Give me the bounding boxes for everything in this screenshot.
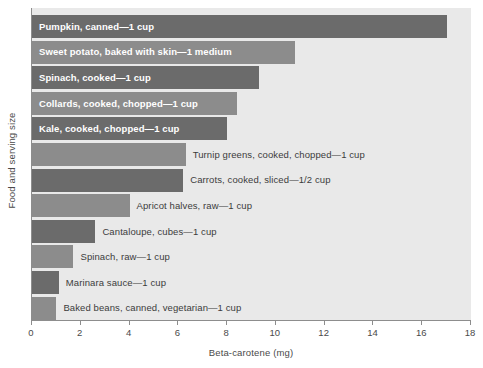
plot-area: Pumpkin, canned—1 cupSweet potato, baked… xyxy=(31,8,471,320)
bar-label: Spinach, cooked—1 cup xyxy=(39,66,151,89)
bar-label: Collards, cooked, chopped—1 cup xyxy=(39,92,198,115)
beta-carotene-bar-chart: Food and serving size Pumpkin, canned—1 … xyxy=(0,0,483,368)
x-axis-tick xyxy=(275,320,276,325)
bar xyxy=(32,297,56,320)
bar-label: Sweet potato, baked with skin—1 medium xyxy=(39,41,232,64)
bar xyxy=(32,220,95,243)
bar-label: Apricot halves, raw—1 cup xyxy=(137,194,253,217)
x-axis-tick xyxy=(470,320,471,325)
bar-label: Marinara sauce—1 cup xyxy=(66,271,166,294)
bar-label: Spinach, raw—1 cup xyxy=(80,245,169,268)
x-axis-title: Beta-carotene (mg) xyxy=(31,347,471,358)
x-axis-tick-label: 12 xyxy=(318,327,329,338)
bar xyxy=(32,245,73,268)
x-axis-tick-label: 14 xyxy=(367,327,378,338)
x-axis-tick xyxy=(226,320,227,325)
bar-label: Kale, cooked, chopped—1 cup xyxy=(39,117,179,140)
x-axis-tick-label: 2 xyxy=(77,327,82,338)
bars-container: Pumpkin, canned—1 cupSweet potato, baked… xyxy=(32,8,471,320)
bar-label: Turnip greens, cooked, chopped—1 cup xyxy=(193,143,365,166)
bar xyxy=(32,169,183,192)
x-axis-tick xyxy=(372,320,373,325)
x-axis-tick-label: 8 xyxy=(223,327,228,338)
bar-label: Carrots, cooked, sliced—1/2 cup xyxy=(190,169,330,192)
bar xyxy=(32,143,186,166)
bar-label: Baked beans, canned, vegetarian—1 cup xyxy=(63,297,241,320)
x-axis-tick xyxy=(129,320,130,325)
x-axis-tick xyxy=(421,320,422,325)
x-axis-tick-label: 16 xyxy=(416,327,427,338)
x-axis-tick-label: 6 xyxy=(175,327,180,338)
y-axis-title: Food and serving size xyxy=(0,0,22,320)
x-axis-tick-label: 18 xyxy=(465,327,476,338)
bar xyxy=(32,271,59,294)
x-axis-line: 024681012141618 xyxy=(31,320,471,321)
bar xyxy=(32,194,130,217)
x-axis-tick-label: 10 xyxy=(270,327,281,338)
x-axis-tick-label: 0 xyxy=(28,327,33,338)
x-axis-tick xyxy=(324,320,325,325)
x-axis-tick xyxy=(31,320,32,325)
x-axis-tick xyxy=(80,320,81,325)
x-axis-tick xyxy=(177,320,178,325)
y-axis-title-text: Food and serving size xyxy=(6,112,17,208)
bar-label: Cantaloupe, cubes—1 cup xyxy=(102,220,216,243)
x-axis-tick-label: 4 xyxy=(126,327,131,338)
bar-label: Pumpkin, canned—1 cup xyxy=(39,15,154,38)
